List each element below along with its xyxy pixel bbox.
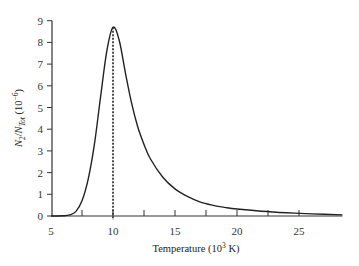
y-tick-label: 1 bbox=[38, 188, 44, 200]
y-tick-label: 0 bbox=[38, 210, 44, 222]
plot-area bbox=[51, 27, 342, 216]
x-tick-label: 15 bbox=[170, 225, 182, 237]
x-tick-label: 20 bbox=[232, 225, 244, 237]
x-tick-label: 5 bbox=[48, 225, 54, 237]
y-tick-label: 6 bbox=[38, 80, 44, 92]
y-tick-label: 3 bbox=[38, 145, 44, 157]
y-tick-label: 8 bbox=[38, 36, 44, 48]
x-axis: 510152025 bbox=[48, 210, 342, 237]
x-axis-label: Temperature (103 K) bbox=[153, 241, 240, 255]
y-tick-label: 4 bbox=[38, 123, 44, 135]
y-axis: 0123456789 bbox=[38, 15, 53, 222]
x-tick-label: 10 bbox=[108, 225, 120, 237]
y-tick-label: 5 bbox=[38, 102, 44, 114]
y-tick-label: 7 bbox=[38, 58, 44, 70]
chart: 0123456789 510152025 Temperature (103 K)… bbox=[0, 0, 359, 266]
y-tick-label: 2 bbox=[38, 167, 44, 179]
y-tick-label: 9 bbox=[38, 15, 44, 27]
series-line bbox=[51, 27, 342, 216]
x-tick-label: 25 bbox=[294, 225, 306, 237]
y-axis-label: N2/NTot (10−6) bbox=[11, 88, 27, 148]
